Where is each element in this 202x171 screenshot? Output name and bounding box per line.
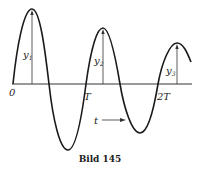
origin-label: 0 [9,87,16,98]
amplitude-arrow-y1 [30,10,33,84]
damped-oscillation-figure: y1 y2 y3 0 T 2T t Bild 145 [0,0,202,171]
amplitude-arrow-y2 [101,29,104,84]
time-label: t [94,115,99,126]
amplitude-arrow-y3 [175,44,178,84]
period-label-2T: 2T [156,91,171,102]
label-y3: y3 [165,65,176,77]
time-arrow [102,118,126,122]
label-y1: y1 [22,49,32,61]
period-label-T: T [84,91,92,102]
oscillation-curve [13,9,191,150]
label-y2: y2 [93,55,104,67]
figure-caption: Bild 145 [79,154,122,164]
